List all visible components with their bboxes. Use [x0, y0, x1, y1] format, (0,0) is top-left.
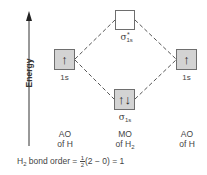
- bond-order-expression: (2 − 0) = 1: [85, 156, 124, 166]
- orbital-box-ao-left-1s: ↑: [54, 49, 75, 70]
- orbital-label-sigma-1s: σ1s: [112, 112, 138, 123]
- bond-order-equation: H2 bond order = 12(2 − 0) = 1: [17, 155, 124, 168]
- column-label-ao-left: AO of H: [50, 129, 80, 149]
- electron-up-arrow-icon: ↑: [61, 53, 68, 66]
- column-label-ao-right: AO of H: [172, 129, 202, 149]
- electron-pair-arrows-icon: ↑↓: [118, 93, 131, 106]
- column-label-line1: MO: [110, 129, 140, 139]
- dash-bonding-to-right: [135, 60, 176, 99]
- column-label-line1: AO: [172, 129, 202, 139]
- column-label-line2: of H: [172, 139, 202, 149]
- dash-left-to-bonding: [75, 60, 114, 99]
- column-label-line2: of H2: [110, 139, 140, 152]
- electron-up-arrow-icon: ↑: [183, 53, 190, 66]
- orbital-label-ao-left: 1s: [54, 73, 75, 82]
- column-label-line2: of H: [50, 139, 80, 149]
- orbital-label-sigma-star-1s: σ1s*: [112, 31, 138, 43]
- column-label-prefix: of H: [116, 139, 132, 149]
- orbital-label-ao-right: 1s: [176, 73, 197, 82]
- column-label-subscript: 2: [131, 144, 134, 150]
- sigma-star-superscript: *: [127, 31, 130, 38]
- orbital-box-sigma-1s: ↑↓: [114, 89, 135, 110]
- dash-left-to-antibonding: [75, 20, 115, 59]
- dash-antibonding-to-right: [135, 20, 176, 59]
- energy-axis-arrowhead-icon: [26, 11, 32, 21]
- column-label-line1: AO: [50, 129, 80, 139]
- bond-order-text: bond order =: [26, 156, 79, 166]
- orbital-box-ao-right-1s: ↑: [176, 49, 197, 70]
- energy-axis-label: Energy: [24, 50, 34, 96]
- sigma-subscript: 1s: [125, 117, 131, 123]
- orbital-box-sigma-star-1s: [115, 10, 135, 30]
- column-label-mo: MO of H2: [110, 129, 140, 152]
